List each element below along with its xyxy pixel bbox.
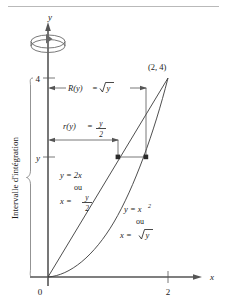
outer-radius-equals: =	[92, 83, 98, 93]
outer-radius-label: R(y)	[67, 83, 83, 93]
inner-radius-label: r(y)	[63, 121, 76, 131]
y-tick-label-4: 4	[36, 74, 41, 84]
y-tick-label-y: y	[35, 153, 40, 163]
parabola-equation-connector: ou	[136, 217, 144, 226]
outer-radius-arrow-left	[48, 86, 55, 90]
integration-interval-label: Intervalle d'intégration	[10, 137, 20, 219]
revolution-solid-figure: y x 4 y 2 0 R(y) = y	[0, 0, 227, 307]
parabola-equation-exponent: 2	[148, 203, 151, 209]
slice-marker-inner	[116, 155, 121, 160]
x-tick-label-2: 2	[166, 287, 171, 297]
line-equation-block: y = 2x ou x = y 2	[59, 170, 92, 213]
parabola-equation-block: y = x 2 ou x = y	[119, 203, 153, 240]
parabola-equation-primary: y = x	[123, 204, 142, 214]
x-axis-arrowhead	[193, 274, 202, 280]
inner-radius-denominator: 2	[99, 130, 103, 139]
line-equation-primary: y = 2x	[59, 170, 82, 180]
inner-radius-numerator: y	[98, 119, 103, 128]
y-axis-label: y	[47, 12, 52, 22]
y-axis-arrowhead	[45, 22, 51, 31]
line-equation-connector: ou	[74, 183, 82, 192]
point-label-2-4: (2, 4)	[148, 62, 167, 72]
line-equation-inverse-lhs: x =	[59, 196, 72, 206]
parabola-equation-radicand: y	[145, 230, 150, 240]
line-equation-denominator: 2	[85, 204, 89, 213]
inner-radius-equals: =	[87, 121, 93, 131]
slice-marker-outer	[144, 155, 149, 160]
inner-radius-measure-group: r(y) = y 2	[48, 119, 119, 157]
outer-radius-radicand: y	[106, 83, 111, 93]
origin-label: 0	[38, 287, 43, 297]
parabola-equation-inverse-lhs: x =	[119, 230, 132, 240]
outer-radius-measure-group: R(y) = y	[48, 80, 147, 157]
line-equation-numerator: y	[84, 193, 89, 202]
integration-interval-brace	[27, 78, 34, 277]
inner-radius-arrow-left	[48, 138, 55, 142]
x-axis-label: x	[209, 272, 214, 282]
